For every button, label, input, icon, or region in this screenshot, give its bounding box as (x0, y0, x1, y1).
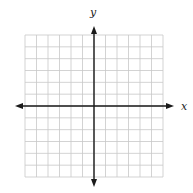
arrow-up-icon (91, 26, 97, 34)
arrow-left-icon (15, 103, 23, 109)
arrow-down-icon (91, 179, 97, 187)
x-axis-label: x (181, 100, 188, 113)
coordinate-plane: x y (0, 0, 193, 193)
arrow-right-icon (166, 103, 174, 109)
axes (15, 26, 174, 187)
y-axis-label: y (89, 6, 97, 19)
